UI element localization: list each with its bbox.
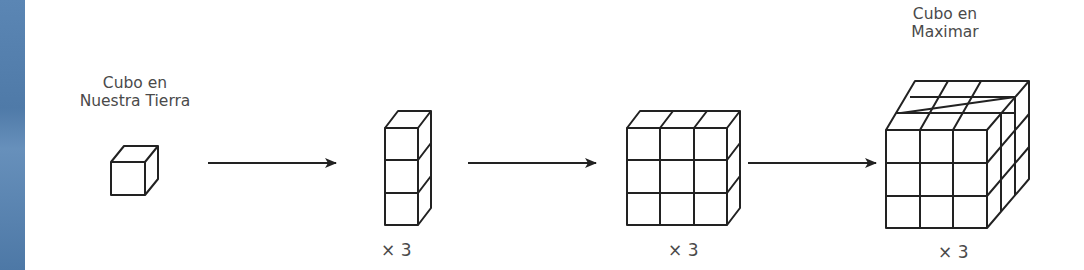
large-cube-icon <box>886 81 1029 228</box>
wall-of-cubes-icon <box>627 111 740 225</box>
cube-diagram <box>0 0 1084 270</box>
single-cube-icon <box>111 146 158 195</box>
column-of-cubes-icon <box>385 111 431 225</box>
